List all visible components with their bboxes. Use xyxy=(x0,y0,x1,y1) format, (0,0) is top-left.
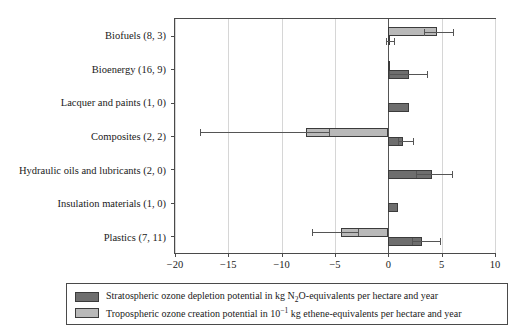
category-axis-labels: Biofuels (8, 3) Bioenergy (16, 9) Lacque… xyxy=(0,18,170,254)
legend-swatch-stratospheric xyxy=(75,292,99,302)
gridline xyxy=(282,19,283,253)
legend-item-stratospheric: Stratospheric ozone depletion potential … xyxy=(75,289,499,305)
category-label: Plastics (7, 11) xyxy=(104,232,166,243)
error-bar-cap xyxy=(416,171,417,178)
x-tick-label: −15 xyxy=(220,259,236,270)
error-bar-cap xyxy=(427,71,428,78)
chart-legend: Stratospheric ozone depletion potential … xyxy=(66,283,508,325)
error-bar-cap xyxy=(413,138,414,145)
category-label: Insulation materials (1, 0) xyxy=(58,198,166,209)
x-tick-label: −5 xyxy=(329,259,340,270)
legend-label-tropospheric: Tropospheric ozone creation potential in… xyxy=(106,306,462,319)
error-bar-cap xyxy=(452,171,453,178)
bar-stratospheric xyxy=(388,103,408,112)
bar-stratospheric xyxy=(388,203,398,212)
x-tick-label: 10 xyxy=(490,259,501,270)
y-tick-mark xyxy=(171,203,175,204)
category-label: Lacquer and paints (1, 0) xyxy=(61,97,166,108)
error-bar-cap xyxy=(386,38,387,45)
x-tick-label: −20 xyxy=(167,259,183,270)
error-bar-cap xyxy=(394,38,395,45)
error-bar-cap xyxy=(453,29,454,36)
error-bar-tropospheric xyxy=(200,132,329,133)
error-bar-tropospheric xyxy=(424,32,454,33)
y-tick-mark xyxy=(171,136,175,137)
legend-item-tropospheric: Tropospheric ozone creation potential in… xyxy=(75,305,499,321)
x-tick-label: −10 xyxy=(273,259,289,270)
gridline xyxy=(495,19,496,253)
error-bar-cap xyxy=(398,138,399,145)
legend-swatch-tropospheric xyxy=(75,308,99,318)
error-bar-cap xyxy=(389,71,390,78)
x-tick-label: 0 xyxy=(386,259,391,270)
gridline xyxy=(228,19,229,253)
x-tick-mark xyxy=(228,253,229,257)
category-label: Biofuels (8, 3) xyxy=(105,29,166,40)
x-tick-mark xyxy=(175,253,176,257)
category-label: Bioenergy (16, 9) xyxy=(92,63,166,74)
legend-label-stratospheric: Stratospheric ozone depletion potential … xyxy=(106,290,438,304)
y-tick-mark xyxy=(171,103,175,104)
error-bar-stratospheric xyxy=(412,241,440,242)
y-tick-mark xyxy=(171,69,175,70)
error-bar-cap xyxy=(358,229,359,236)
error-bar-cap xyxy=(312,229,313,236)
gridline xyxy=(442,19,443,253)
error-bar-stratospheric xyxy=(398,141,413,142)
x-tick-mark xyxy=(282,253,283,257)
plot-area xyxy=(174,18,496,254)
x-tick-mark xyxy=(335,253,336,257)
y-tick-mark xyxy=(171,36,175,37)
category-label: Composites (2, 2) xyxy=(91,131,166,142)
error-bar-cap xyxy=(200,129,201,136)
chart-figure: Biofuels (8, 3) Bioenergy (16, 9) Lacque… xyxy=(0,0,520,334)
gridline xyxy=(175,19,176,253)
error-bar-cap xyxy=(440,238,441,245)
error-bar-cap xyxy=(329,129,330,136)
error-bar-cap xyxy=(424,29,425,36)
error-bar-stratospheric xyxy=(389,74,426,75)
x-tick-label: 5 xyxy=(439,259,444,270)
error-bar-stratospheric xyxy=(416,174,452,175)
x-tick-mark xyxy=(442,253,443,257)
x-tick-mark xyxy=(388,253,389,257)
error-bar-cap xyxy=(412,238,413,245)
error-bar-tropospheric xyxy=(312,232,359,233)
y-tick-mark xyxy=(171,236,175,237)
y-tick-mark xyxy=(171,169,175,170)
bar-tropospheric xyxy=(388,61,390,70)
x-tick-mark xyxy=(495,253,496,257)
error-bar-stratospheric xyxy=(386,41,394,42)
category-label: Hydraulic oils and lubricants (2, 0) xyxy=(19,164,166,175)
